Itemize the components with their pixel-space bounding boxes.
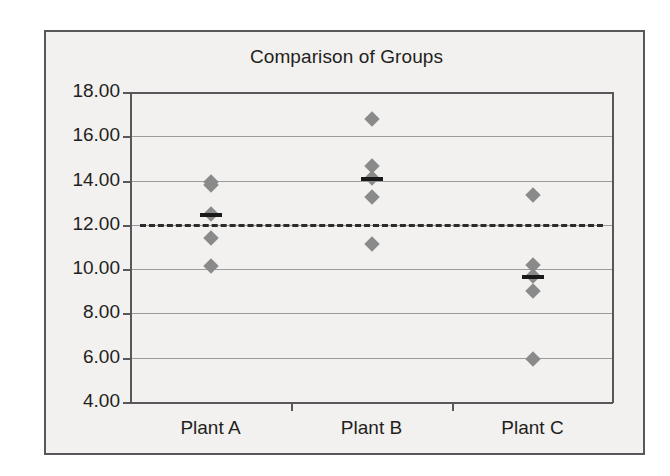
y-tick-label: 16.00 (44, 124, 120, 146)
chart-figure: Comparison of Groups 18.0016.0014.0012.0… (0, 0, 670, 476)
x-axis-separator (291, 402, 293, 411)
grand-mean-reference-line (140, 224, 603, 227)
y-tick-mark (123, 269, 130, 271)
y-tick-mark (123, 181, 130, 183)
data-point-marker (203, 230, 219, 246)
y-tick-label: 10.00 (44, 257, 120, 279)
y-tick-mark (123, 136, 130, 138)
y-tick-mark (123, 92, 130, 94)
plot-border-bottom (130, 402, 613, 404)
y-tick-mark (123, 313, 130, 315)
y-tick-label: 8.00 (44, 301, 120, 323)
group-mean-marker (522, 275, 544, 279)
y-tick-label: 18.00 (44, 80, 120, 102)
data-point-marker (364, 111, 380, 127)
group-mean-marker (200, 213, 222, 217)
x-category-label-3: Plant C (501, 417, 563, 439)
y-tick-mark (123, 402, 130, 404)
y-tick-label: 4.00 (44, 390, 120, 412)
y-tick-mark (123, 358, 130, 360)
data-point-marker (525, 284, 541, 300)
x-category-label-2: Plant B (341, 417, 402, 439)
data-point-marker (525, 351, 541, 367)
data-point-marker (203, 258, 219, 274)
y-tick-mark (123, 225, 130, 227)
data-points-layer (130, 92, 613, 402)
data-point-marker (364, 189, 380, 205)
x-category-label-1: Plant A (180, 417, 240, 439)
y-tick-label: 14.00 (44, 169, 120, 191)
data-point-marker (364, 236, 380, 252)
y-tick-label: 6.00 (44, 346, 120, 368)
chart-plot-frame: Comparison of Groups 18.0016.0014.0012.0… (44, 30, 645, 455)
group-mean-marker (361, 177, 383, 181)
data-point-marker (525, 187, 541, 203)
x-axis-separator (452, 402, 454, 411)
y-tick-label: 12.00 (44, 213, 120, 235)
chart-title: Comparison of Groups (46, 46, 647, 68)
